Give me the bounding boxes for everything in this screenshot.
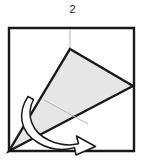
origami-step-figure: 2 — [0, 0, 145, 161]
origami-diagram — [0, 0, 145, 161]
